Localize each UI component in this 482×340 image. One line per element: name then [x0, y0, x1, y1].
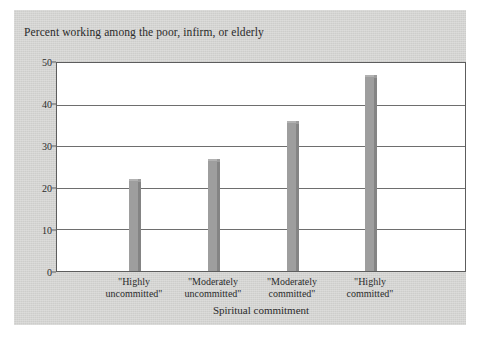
- bar-moderately-uncommitted[interactable]: [208, 159, 220, 271]
- bar-side: [217, 162, 220, 271]
- x-label-line-2: committed": [324, 288, 416, 300]
- bar-highly-uncommitted[interactable]: [129, 179, 141, 271]
- gridline-10: [57, 229, 465, 230]
- gridline-20: [57, 188, 465, 189]
- bar-moderately-committed[interactable]: [287, 121, 299, 271]
- bar-face: [129, 179, 138, 271]
- bar-side: [296, 124, 299, 271]
- y-tick-label-50: 50: [42, 57, 52, 68]
- x-axis-title: Spiritual commitment: [56, 304, 466, 316]
- bar-face: [208, 159, 217, 271]
- bar-side: [374, 78, 377, 271]
- bar-face: [287, 121, 296, 271]
- gridline-40: [57, 105, 465, 106]
- figure-panel: Percent working among the poor, infirm, …: [14, 10, 466, 325]
- bar-side: [138, 182, 141, 271]
- gridline-30: [57, 146, 465, 147]
- bar-top: [365, 75, 374, 77]
- y-tick-label-30: 30: [42, 141, 52, 152]
- bar-highly-committed[interactable]: [365, 75, 377, 271]
- bar-top: [129, 179, 138, 181]
- x-label-highly-committed: "Highly committed": [324, 276, 416, 299]
- figure-root: Percent working among the poor, infirm, …: [0, 0, 482, 340]
- bar-top: [208, 159, 217, 161]
- bar-top: [287, 121, 296, 123]
- y-tick-label-40: 40: [42, 99, 52, 110]
- x-label-line-1: "Highly: [324, 276, 416, 288]
- y-tick-label-20: 20: [42, 183, 52, 194]
- plot-area: [56, 62, 466, 272]
- y-axis: 50 40 30 20 10 0: [30, 62, 52, 272]
- chart-title: Percent working among the poor, infirm, …: [24, 26, 264, 38]
- y-tick-label-10: 10: [42, 225, 52, 236]
- bar-face: [365, 75, 374, 271]
